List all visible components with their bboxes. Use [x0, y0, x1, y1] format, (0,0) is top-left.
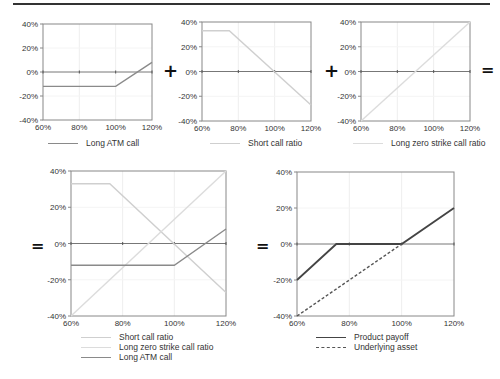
plus-operator: + — [163, 60, 178, 81]
equals-operator: = — [481, 60, 494, 79]
y-tick-label: 0% — [26, 68, 38, 77]
equals-operator: = — [31, 236, 44, 255]
legend-label: Long ATM call — [119, 352, 172, 362]
x-tick-label: 100% — [264, 124, 284, 133]
legend-label: Long zero strike call ratio — [391, 138, 486, 148]
y-tick-label: 0% — [344, 68, 356, 77]
y-tick-label: 0% — [185, 68, 197, 77]
x-tick-label: 120% — [301, 124, 321, 133]
y-tick-label: 20% — [340, 43, 356, 52]
equals-operator: = — [256, 236, 269, 255]
legend-item: Long ATM call — [81, 352, 214, 362]
y-tick-label: -20% — [178, 92, 197, 101]
y-tick-label: 0% — [54, 240, 66, 249]
legend-label: Product payoff — [354, 332, 409, 342]
series-long-atm-call — [43, 62, 152, 86]
y-tick-label: 20% — [181, 43, 197, 52]
plot-area: 40%20%0%-20%-40%60%80%100%120% — [43, 24, 152, 120]
legend-swatch — [81, 347, 111, 348]
plus-operator: + — [324, 60, 339, 81]
legend-item: Product payoff — [316, 332, 417, 342]
legend-item: Short call ratio — [81, 332, 214, 342]
plot-area: 40%20%0%-20%-40%60%80%100%120% — [71, 171, 226, 316]
x-tick-label: 80% — [389, 124, 405, 133]
x-tick-label: 120% — [444, 319, 464, 328]
legend-label: Long ATM call — [86, 138, 139, 148]
x-tick-label: 60% — [35, 123, 51, 132]
legend-combined-components: Short call ratio Long zero strike call r… — [81, 332, 214, 362]
x-tick-label: 80% — [341, 319, 357, 328]
y-tick-label: 40% — [276, 168, 292, 177]
x-tick-label: 60% — [194, 124, 210, 133]
legend-product-payoff: Product payoff Underlying asset — [316, 332, 417, 352]
plot-area: 40%20%0%-20%-40%60%80%100%120% — [361, 22, 470, 121]
plot-area: 40%20%0%-20%-40%60%80%100%120% — [202, 22, 311, 121]
x-tick-label: 80% — [115, 319, 131, 328]
legend-swatch — [210, 143, 240, 144]
legend-item: Underlying asset — [316, 342, 417, 352]
legend-label: Long zero strike call ratio — [119, 342, 214, 352]
y-tick-label: -20% — [47, 276, 66, 285]
y-tick-label: 40% — [50, 167, 66, 176]
legend-label: Short call ratio — [119, 332, 173, 342]
series-short-call-ratio — [71, 184, 226, 293]
legend-label: Underlying asset — [354, 342, 417, 352]
y-tick-label: -20% — [337, 92, 356, 101]
legend-swatch — [353, 143, 383, 144]
legend-short-call-ratio: Short call ratio — [210, 138, 302, 148]
x-tick-label: 120% — [216, 319, 236, 328]
x-tick-label: 100% — [105, 123, 125, 132]
y-tick-label: -20% — [19, 92, 38, 101]
x-tick-label: 120% — [142, 123, 162, 132]
y-tick-label: -20% — [273, 276, 292, 285]
series-short-call-ratio — [202, 31, 311, 105]
legend-long-zero-strike-call-ratio: Long zero strike call ratio — [353, 138, 486, 148]
y-tick-label: 0% — [280, 240, 292, 249]
series-long-atm-call — [71, 229, 226, 265]
x-tick-label: 100% — [164, 319, 184, 328]
x-tick-label: 100% — [391, 319, 411, 328]
legend-swatch — [316, 347, 346, 348]
y-tick-label: 40% — [340, 18, 356, 27]
x-tick-label: 100% — [423, 124, 443, 133]
y-tick-label: 20% — [276, 204, 292, 213]
legend-item: Short call ratio — [210, 138, 302, 148]
legend-label: Short call ratio — [248, 138, 302, 148]
y-tick-label: 20% — [22, 44, 38, 53]
plot-area: 40%20%0%-20%-40%60%80%100%120% — [297, 172, 454, 316]
y-tick-label: 40% — [181, 18, 197, 27]
legend-swatch — [316, 337, 346, 338]
legend-swatch — [48, 143, 78, 144]
x-tick-label: 60% — [63, 319, 79, 328]
legend-long-atm-call: Long ATM call — [48, 138, 139, 148]
legend-item: Long zero strike call ratio — [81, 342, 214, 352]
top-rule — [13, 3, 490, 5]
legend-swatch — [81, 337, 111, 338]
x-tick-label: 60% — [353, 124, 369, 133]
x-tick-label: 80% — [230, 124, 246, 133]
x-tick-label: 60% — [289, 319, 305, 328]
x-tick-label: 120% — [460, 124, 480, 133]
legend-item: Long zero strike call ratio — [353, 138, 486, 148]
legend-item: Long ATM call — [48, 138, 139, 148]
y-tick-label: 20% — [50, 203, 66, 212]
x-tick-label: 80% — [71, 123, 87, 132]
y-tick-label: 40% — [22, 20, 38, 29]
legend-swatch — [81, 357, 111, 358]
